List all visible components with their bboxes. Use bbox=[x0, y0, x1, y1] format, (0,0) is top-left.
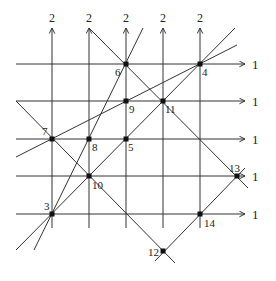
point-marker-8 bbox=[87, 137, 92, 142]
point-marker-13 bbox=[235, 174, 240, 179]
vertical-line-label: 2 bbox=[160, 11, 166, 25]
point-label-13: 13 bbox=[229, 162, 241, 174]
line-arrangement-diagram: 22222 11111 34567891011121314 bbox=[0, 0, 276, 281]
point-marker-3 bbox=[50, 212, 55, 217]
point-marker-10 bbox=[87, 174, 92, 179]
horizontal-line-label: 1 bbox=[252, 132, 259, 147]
point-marker-14 bbox=[198, 212, 203, 217]
point-label-8: 8 bbox=[92, 141, 98, 153]
point-label-4: 4 bbox=[202, 66, 208, 78]
point-marker-9 bbox=[124, 99, 129, 104]
horizontal-line-label: 1 bbox=[252, 57, 259, 72]
vertical-line-label: 2 bbox=[197, 11, 203, 25]
vertical-line-label: 2 bbox=[86, 11, 92, 25]
point-marker-12 bbox=[161, 249, 166, 254]
point-label-11: 11 bbox=[165, 103, 176, 115]
vertical-line-label: 2 bbox=[49, 11, 55, 25]
point-label-14: 14 bbox=[204, 217, 216, 229]
vertical-line-label: 2 bbox=[123, 11, 129, 25]
point-label-6: 6 bbox=[115, 66, 121, 78]
horizontal-line-label: 1 bbox=[252, 94, 259, 109]
horizontal-line-label: 1 bbox=[252, 169, 259, 184]
point-label-9: 9 bbox=[129, 103, 135, 115]
point-label-7: 7 bbox=[42, 125, 48, 137]
point-marker-6 bbox=[124, 62, 129, 67]
horizontal-line-label: 1 bbox=[252, 207, 259, 222]
point-label-10: 10 bbox=[92, 179, 104, 191]
point-label-3: 3 bbox=[44, 200, 50, 212]
point-label-5: 5 bbox=[128, 141, 134, 153]
point-marker-7 bbox=[50, 137, 55, 142]
point-label-12: 12 bbox=[148, 246, 159, 258]
